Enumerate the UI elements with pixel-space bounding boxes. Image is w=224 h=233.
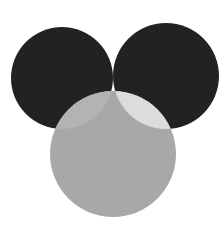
venn-diagram [0, 0, 224, 233]
